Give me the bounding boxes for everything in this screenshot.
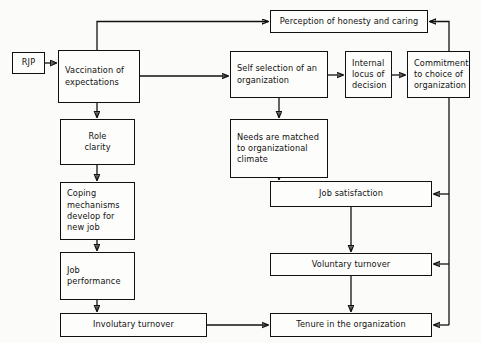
node-jobperformance-line: Job [67,265,80,276]
node-internallocus-line: decision [352,80,387,91]
edge-vaccination-to-perception [97,22,268,51]
node-perception-line: Perception of honesty and caring [280,16,419,27]
node-commitment-line: organization [414,80,466,91]
node-vaccination-line: expectations [65,77,119,88]
node-needsmatched[interactable]: Needs are matchedto organizationalclimat… [230,119,328,178]
node-internallocus[interactable]: Internallocus ofdecision [345,51,392,98]
node-commitment-line: to choice of [414,69,463,80]
node-perception[interactable]: Perception of honesty and caring [270,10,428,33]
node-coping-line: new job [67,222,100,233]
node-selfselection-line: Self selection of an [237,63,317,74]
edge-commitment-to-perception [430,22,449,52]
node-commitment-line: Commitment [414,58,469,69]
node-roleclarity-line: clarity [84,142,110,153]
node-coping-line: Coping [67,188,96,199]
node-involuntary-line: Involutary turnover [93,319,174,330]
node-needsmatched-line: to organizational [237,143,308,154]
node-voluntary-line: Voluntary turnover [312,259,391,270]
node-tenure-line: Tenure in the organization [296,319,405,330]
node-internallocus-line: Internal [352,58,384,69]
node-coping-line: mechanisms [67,200,120,211]
node-selfselection[interactable]: Self selection of anorganization [230,51,328,98]
node-rjp-line: RJP [22,57,35,68]
node-roleclarity-line: Role [88,131,106,142]
node-rjp[interactable]: RJP [12,52,45,74]
node-selfselection-line: organization [237,75,289,86]
node-coping-line: develop for [67,211,115,222]
node-jobsatisfaction[interactable]: Job satisfaction [270,181,432,207]
node-coping[interactable]: Copingmechanismsdevelop fornew job [60,182,135,240]
node-roleclarity[interactable]: Roleclarity [60,119,135,165]
node-needsmatched-line: climate [237,154,268,165]
node-jobperformance[interactable]: Jobperformance [60,252,135,300]
node-needsmatched-line: Needs are matched [237,132,319,143]
node-vaccination[interactable]: Vaccination ofexpectations [58,50,140,103]
node-internallocus-line: locus of [352,69,385,80]
node-voluntary[interactable]: Voluntary turnover [270,253,432,276]
node-jobperformance-line: performance [67,276,121,287]
flowchart-canvas: RJPVaccination ofexpectationsPerception … [0,0,481,343]
node-tenure[interactable]: Tenure in the organization [270,313,432,337]
node-jobsatisfaction-line: Job satisfaction [319,188,383,199]
node-commitment[interactable]: Commitmentto choice oforganization [407,51,470,98]
node-vaccination-line: Vaccination of [65,65,124,76]
node-involuntary[interactable]: Involutary turnover [60,313,207,337]
